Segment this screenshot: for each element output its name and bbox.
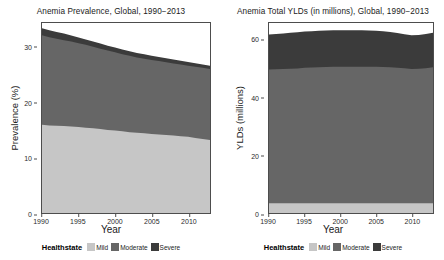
legend-item-severe[interactable]: Severe <box>373 243 403 251</box>
area-moderate <box>269 67 433 213</box>
legend-key-severe <box>373 243 381 251</box>
legend-key-severe <box>151 243 159 251</box>
legend-ylds: Healthstate Mild Moderate Severe <box>222 240 444 254</box>
legend-label-mild: Mild <box>96 244 108 251</box>
legend-label-severe: Severe <box>382 244 403 251</box>
legend-title: Healthstate <box>42 243 82 252</box>
legend-item-severe[interactable]: Severe <box>151 243 181 251</box>
legend-item-mild[interactable]: Mild <box>87 243 108 251</box>
legend-item-moderate[interactable]: Moderate <box>111 243 147 251</box>
facet-ylds: Anemia Total YLDs (in millions), Global,… <box>222 0 444 260</box>
legend-label-severe: Severe <box>160 244 181 251</box>
figure-two-panel-area-charts: Anemia Prevalence, Global, 1990−2013 Pre… <box>0 0 444 260</box>
legend-label-mild: Mild <box>318 244 330 251</box>
area-plot-ylds <box>269 23 433 213</box>
legend-label-moderate: Moderate <box>120 244 147 251</box>
legend-key-mild <box>87 243 95 251</box>
y-axis-label-prevalence: Prevalence (%) <box>9 43 20 193</box>
y-tick: 0 <box>28 211 32 218</box>
area-plot-prevalence <box>42 23 210 213</box>
y-tick: 20 <box>251 152 259 159</box>
legend-label-moderate: Moderate <box>342 244 369 251</box>
legend-key-moderate <box>111 243 119 251</box>
plot-panel-prevalence <box>41 22 211 214</box>
x-axis-label-ylds: Year <box>222 224 444 235</box>
y-axis-ylds: YLDs (millions) 0 20 40 60 <box>222 22 265 214</box>
chart-title-prevalence: Anemia Prevalence, Global, 1990−2013 <box>0 7 222 16</box>
legend-title: Healthstate <box>264 243 304 252</box>
legend-item-moderate[interactable]: Moderate <box>333 243 369 251</box>
y-axis-prevalence: Prevalence (%) 0 10 20 30 <box>0 22 38 214</box>
y-tick: 30 <box>24 43 32 50</box>
y-tick: 20 <box>24 99 32 106</box>
plot-panel-ylds <box>268 22 434 214</box>
y-tick: 60 <box>251 36 259 43</box>
legend-key-moderate <box>333 243 341 251</box>
legend-prevalence: Healthstate Mild Moderate Severe <box>0 240 222 254</box>
facet-prevalence: Anemia Prevalence, Global, 1990−2013 Pre… <box>0 0 222 260</box>
legend-item-mild[interactable]: Mild <box>309 243 330 251</box>
x-axis-label-prevalence: Year <box>0 224 222 235</box>
y-tick: 40 <box>251 94 259 101</box>
chart-title-ylds: Anemia Total YLDs (in millions), Global,… <box>222 7 444 16</box>
area-mild <box>42 125 210 213</box>
legend-key-mild <box>309 243 317 251</box>
y-axis-label-ylds: YLDs (millions) <box>234 43 245 193</box>
area-mild <box>269 203 433 213</box>
y-tick: 0 <box>255 211 259 218</box>
y-tick: 10 <box>24 155 32 162</box>
